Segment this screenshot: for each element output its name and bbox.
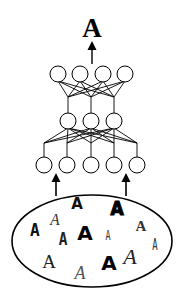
- output-layer-node-4: [117, 66, 133, 82]
- letter-variant-thin-condensed: A: [105, 227, 110, 244]
- input-layer-node-3: [83, 157, 99, 173]
- letter-variant-swash-script: A: [121, 245, 137, 268]
- hidden-layer-node-2: [83, 113, 99, 129]
- letter-variant-serif: A: [42, 251, 56, 272]
- letter-variant-thin-condensed: A: [152, 237, 158, 254]
- network-nodes: [36, 66, 145, 173]
- letter-variant-rounded-bold: A: [30, 219, 40, 240]
- hidden-layer-node-1: [60, 113, 76, 129]
- input-arrow-1: [52, 173, 61, 196]
- output-layer-node-2: [72, 66, 88, 82]
- letter-variant-bold-sans: A: [101, 251, 117, 275]
- letter-variant-bold-sans: A: [71, 195, 83, 213]
- output-layer-node-1: [50, 66, 66, 82]
- letter-variant-script-outline: A: [74, 263, 87, 283]
- letter-variant-heavy-black: A: [110, 197, 124, 220]
- neural-network-diagram: A AAAAAAAAAAAAA: [0, 0, 184, 291]
- letter-variant-script: A: [49, 210, 59, 228]
- letter-variant-bold-sans: A: [77, 221, 93, 245]
- input-layer-node-2: [59, 157, 75, 173]
- input-arrows: [52, 173, 131, 196]
- input-letter-variants: AAAAAAAAAAAAA: [30, 195, 158, 283]
- input-layer-node-5: [129, 157, 145, 173]
- input-arrow-2: [122, 173, 131, 196]
- output-layer-node-3: [95, 66, 111, 82]
- output-arrow: [88, 41, 97, 64]
- output-letter: A: [82, 13, 102, 43]
- letter-variant-curly: A: [59, 229, 68, 249]
- input-layer-node-1: [36, 157, 52, 173]
- input-layer-node-4: [106, 157, 122, 173]
- hidden-layer-node-3: [106, 113, 122, 129]
- letter-variant-blackletter: A: [136, 218, 147, 234]
